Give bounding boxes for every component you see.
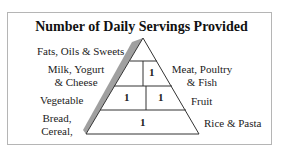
label-milk-yogurt-cheese: Milk, Yogurt & Cheese bbox=[40, 63, 112, 89]
serving-fruit: 1 bbox=[158, 91, 164, 103]
label-fruit: Fruit bbox=[191, 95, 212, 108]
label-bread-cereal: Bread, Cereal, bbox=[38, 112, 76, 138]
label-bread-line2: Cereal, bbox=[38, 125, 76, 138]
label-vegetable: Vegetable bbox=[40, 94, 83, 107]
serving-bread-rice: 1 bbox=[140, 116, 146, 128]
label-milk-line2: & Cheese bbox=[40, 76, 112, 89]
label-bread-line1: Bread, bbox=[38, 112, 76, 125]
label-milk-line1: Milk, Yogurt bbox=[40, 63, 112, 76]
label-fats-oils-sweets: Fats, Oils & Sweets bbox=[37, 45, 124, 58]
label-meat-line2: & Fish bbox=[170, 76, 234, 89]
serving-meat: 1 bbox=[149, 66, 155, 78]
serving-vegetable: 1 bbox=[124, 91, 130, 103]
label-meat-poultry-fish: Meat, Poultry & Fish bbox=[170, 63, 234, 89]
label-rice-pasta: Rice & Pasta bbox=[204, 117, 261, 130]
label-meat-line1: Meat, Poultry bbox=[170, 63, 234, 76]
